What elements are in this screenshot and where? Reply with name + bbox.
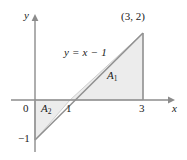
region-label-a2-letter: A <box>41 102 48 114</box>
figure-canvas: y x 0 1 3 −1 A1 A2 y = x − 1 (3, 2) <box>0 0 187 160</box>
x-axis-label: x <box>172 103 177 114</box>
point-label: (3, 2) <box>121 11 145 22</box>
region-label-a1: A1 <box>107 70 117 83</box>
tick-label-3: 3 <box>139 103 145 114</box>
region-label-a2: A2 <box>41 103 51 116</box>
tick-label-0: 0 <box>23 103 29 114</box>
region-label-a1-letter: A <box>107 69 114 81</box>
y-axis-arrowhead <box>32 14 39 21</box>
region-label-a1-subscript: 1 <box>114 74 118 83</box>
equation-label: y = x − 1 <box>64 47 107 58</box>
y-axis-label: y <box>24 10 29 21</box>
region-label-a2-subscript: 2 <box>48 107 52 116</box>
tick-label-1: 1 <box>66 103 72 114</box>
tick-label-negative-1: −1 <box>18 133 30 144</box>
